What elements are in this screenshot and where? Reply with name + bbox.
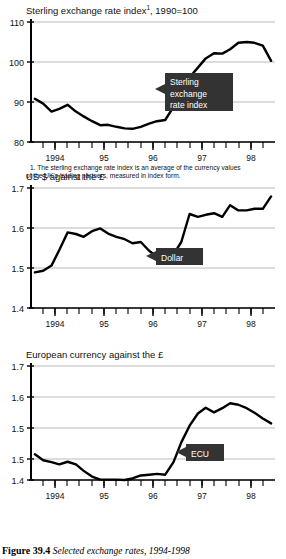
- x-tick-label: 98: [246, 491, 256, 501]
- chart-title-european-currency: European currency against the £: [0, 346, 286, 360]
- x-tick-label: 1994: [46, 153, 65, 163]
- y-tick-label: 1.4: [11, 476, 24, 486]
- y-tick-label: 100: [9, 58, 24, 68]
- gridlines-us-dollar: [31, 188, 275, 308]
- chart-panel-us-dollar: US $ against the £ 1.7 1.: [0, 168, 286, 346]
- svg-chart-sterling-index: 110 100 90 80: [0, 16, 286, 164]
- figure-container: Sterling exchange rate index1, 1990=100: [0, 0, 286, 559]
- callout-line: rate index: [170, 100, 208, 110]
- y-tick-label: 1.4: [11, 304, 24, 314]
- chart-title-text: US $ against the £: [26, 171, 104, 182]
- x-tick-label: 95: [99, 153, 109, 163]
- x-major-ticks-european-currency: [55, 480, 251, 488]
- x-tick-label: 96: [148, 153, 158, 163]
- callout-line: Dollar: [161, 253, 183, 263]
- plot-area-european-currency: 1.7 1.6 1.5 1.5 1.4: [0, 360, 286, 515]
- data-series-line: [35, 196, 271, 272]
- gridlines-sterling-index: [31, 22, 275, 142]
- chart-title-suffix: , 1990=100: [150, 5, 198, 16]
- figure-caption: Figure 39.4 Selected exchange rates, 199…: [2, 545, 284, 557]
- chart-panel-european-currency: European currency against the £: [0, 346, 286, 521]
- annotation-callout-sterling-index[interactable]: Sterling exchange rate index: [155, 73, 233, 111]
- y-tick-label: 1.6: [11, 224, 24, 234]
- x-tick-label: 97: [197, 319, 207, 329]
- annotation-callout-us-dollar[interactable]: Dollar: [146, 248, 203, 265]
- y-tick-label: 1.5: [11, 424, 24, 434]
- y-tick-label: 1.5: [11, 455, 24, 465]
- x-tick-label: 96: [148, 319, 158, 329]
- data-series-line: [35, 403, 271, 480]
- caption-number: Figure 39.4: [2, 545, 50, 556]
- x-major-ticks-us-dollar: [55, 308, 251, 316]
- x-tick-label: 96: [148, 491, 158, 501]
- x-tick-label: 98: [246, 153, 256, 163]
- chart-title-text: Sterling exchange rate index: [26, 5, 146, 16]
- annotation-callout-european-currency[interactable]: ECU: [176, 444, 224, 461]
- y-tick-label: 1.6: [11, 393, 24, 403]
- plot-area-sterling-index: 110 100 90 80: [0, 16, 286, 164]
- x-tick-label: 1994: [46, 491, 65, 501]
- callout-line: ECU: [191, 449, 209, 459]
- chart-title-sterling-index: Sterling exchange rate index1, 1990=100: [0, 0, 286, 16]
- plot-area-us-dollar: 1.7 1.6 1.5 1.4: [0, 182, 286, 340]
- svg-chart-european-currency: 1.7 1.6 1.5 1.5 1.4: [0, 360, 286, 515]
- x-tick-label: 97: [197, 491, 207, 501]
- x-tick-label: 1994: [46, 319, 65, 329]
- chart-panel-sterling-index: Sterling exchange rate index1, 1990=100: [0, 0, 286, 168]
- data-series-line: [35, 42, 271, 129]
- chart-title-us-dollar: US $ against the £: [0, 168, 286, 182]
- chart-title-text: European currency against the £: [26, 349, 163, 360]
- x-tick-label: 97: [197, 153, 207, 163]
- x-tick-label: 98: [246, 319, 256, 329]
- y-tick-label: 90: [14, 98, 24, 108]
- caption-text: Selected exchange rates, 1994-1998: [53, 546, 190, 556]
- callout-line: Sterling: [170, 77, 199, 87]
- y-tick-label: 1.7: [11, 362, 24, 372]
- callout-line: exchange: [170, 89, 207, 99]
- y-tick-label: 110: [10, 18, 24, 28]
- x-tick-label: 95: [99, 319, 109, 329]
- y-tick-label: 1.5: [11, 264, 24, 274]
- y-tick-label: 80: [14, 138, 24, 148]
- y-tick-label: 1.7: [11, 184, 24, 194]
- x-major-ticks-sterling-index: [55, 142, 251, 150]
- svg-chart-us-dollar: 1.7 1.6 1.5 1.4: [0, 182, 286, 340]
- x-tick-label: 95: [99, 491, 109, 501]
